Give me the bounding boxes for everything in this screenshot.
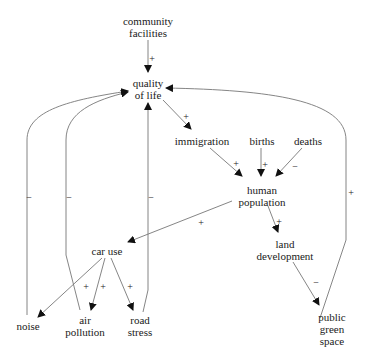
polarity-caruse-road: + — [127, 282, 133, 292]
node-air-pollution: air pollution — [65, 314, 105, 338]
node-quality-of-life: quality of life — [133, 77, 164, 101]
node-car-use: car use — [92, 245, 123, 257]
edge-road-to-quality — [143, 103, 148, 312]
edge-caruse-to-noise — [38, 258, 102, 317]
polarity-caruse-air: + — [100, 282, 106, 292]
node-human-population: human population — [238, 184, 285, 208]
polarity-green-quality: + — [348, 188, 354, 198]
polarity-land-green: − — [313, 278, 319, 288]
node-road-stress: road stress — [128, 314, 152, 338]
polarity-noise-quality: − — [26, 193, 32, 203]
polarity-immigration-population: + — [233, 159, 239, 169]
node-land-development: land development — [257, 238, 314, 262]
node-deaths: deaths — [294, 135, 322, 147]
polarity-deaths-population: − — [292, 162, 298, 172]
node-immigration: immigration — [175, 135, 229, 147]
polarity-road-quality: − — [148, 193, 154, 203]
polarity-air-quality: − — [66, 193, 72, 203]
node-community-facilities: community facilities — [123, 15, 173, 39]
edge-noise-to-quality — [27, 91, 128, 315]
edge-population-to-caruse — [128, 201, 232, 242]
polarity-caruse-noise: + — [83, 282, 89, 292]
polarity-community-quality: + — [149, 54, 155, 64]
polarity-quality-immigration: + — [183, 112, 189, 122]
node-noise: noise — [16, 320, 39, 332]
polarity-births-population: + — [262, 160, 268, 170]
polarity-population-caruse: + — [198, 218, 204, 228]
polarity-population-land: + — [276, 217, 282, 227]
node-public-green-space: public green space — [318, 311, 346, 347]
diagram-edges — [0, 0, 370, 361]
node-births: births — [249, 135, 274, 147]
